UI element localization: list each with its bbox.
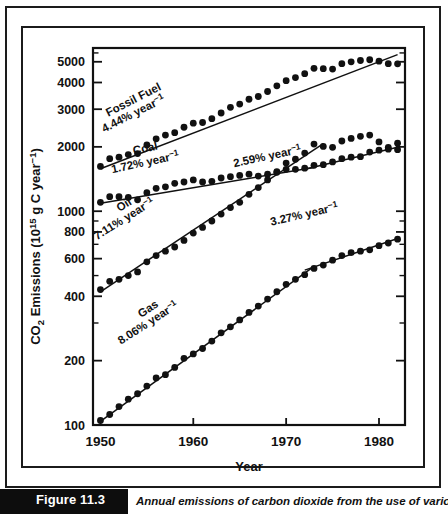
data-point-coal: [264, 171, 271, 178]
data-point-coal: [162, 183, 169, 190]
data-point-coal: [199, 179, 206, 186]
data-point-oil: [218, 211, 225, 218]
x-axis-title: Year: [235, 459, 262, 474]
x-tick-label: 1950: [85, 434, 115, 449]
data-point-coal: [153, 185, 160, 192]
data-point-fossil-fuel: [320, 65, 327, 72]
data-point-oil: [97, 286, 104, 293]
data-point-gas: [181, 355, 188, 362]
data-point-fossil-fuel: [208, 115, 215, 122]
data-point-oil: [348, 135, 355, 142]
data-point-fossil-fuel: [292, 74, 299, 81]
data-point-oil: [320, 143, 327, 150]
data-point-oil: [199, 224, 206, 231]
data-point-oil: [255, 184, 262, 191]
data-point-coal: [181, 179, 188, 186]
data-point-coal: [292, 166, 299, 173]
data-point-coal: [376, 147, 383, 154]
data-point-oil: [143, 258, 150, 265]
y-tick-label: 400: [64, 290, 85, 304]
data-point-fossil-fuel: [97, 163, 104, 170]
data-point-gas: [338, 252, 345, 259]
y-tick-label: 3000: [57, 103, 85, 117]
y-tick-label: 2000: [57, 140, 85, 154]
data-point-coal: [394, 146, 401, 153]
data-point-gas: [264, 296, 271, 303]
data-point-gas: [255, 303, 262, 310]
data-point-fossil-fuel: [236, 101, 243, 108]
data-point-oil: [273, 168, 280, 175]
data-point-gas: [218, 329, 225, 336]
data-point-oil: [292, 156, 299, 163]
data-point-fossil-fuel: [116, 154, 123, 161]
data-point-gas: [376, 242, 383, 249]
data-point-fossil-fuel: [273, 82, 280, 89]
data-point-oil: [190, 230, 197, 237]
trendline-gas-early: [100, 266, 314, 421]
data-point-fossil-fuel: [329, 66, 336, 73]
data-point-gas: [320, 262, 327, 269]
data-point-gas: [125, 396, 132, 403]
data-point-fossil-fuel: [246, 96, 253, 103]
data-point-fossil-fuel: [394, 60, 401, 67]
data-point-fossil-fuel: [338, 60, 345, 67]
co2-emissions-chart: 1002004006008001000200030004000500019501…: [0, 0, 448, 514]
data-point-oil: [338, 138, 345, 145]
data-point-coal: [171, 180, 178, 187]
data-point-gas: [97, 417, 104, 424]
data-point-gas: [246, 309, 253, 316]
data-point-fossil-fuel: [227, 104, 234, 111]
data-point-gas: [153, 375, 160, 382]
data-point-coal: [255, 173, 262, 180]
data-point-gas: [292, 276, 299, 283]
chart-container: 1002004006008001000200030004000500019501…: [0, 0, 448, 514]
data-point-fossil-fuel: [199, 119, 206, 126]
data-point-fossil-fuel: [301, 70, 308, 77]
data-point-fossil-fuel: [348, 58, 355, 65]
x-tick-label: 1970: [271, 434, 301, 449]
y-tick-label: 4000: [57, 76, 85, 90]
data-point-coal: [218, 175, 225, 182]
data-point-coal: [329, 159, 336, 166]
x-tick-label: 1980: [364, 434, 394, 449]
data-point-coal: [366, 149, 373, 156]
trendline-coal-early: [100, 168, 314, 204]
y-tick-label: 200: [64, 354, 85, 368]
data-point-oil: [394, 140, 401, 147]
data-point-fossil-fuel: [255, 93, 262, 100]
data-point-oil: [246, 191, 253, 198]
y-tick-label: 600: [64, 252, 85, 266]
data-point-gas: [116, 403, 123, 410]
y-tick-label: 100: [64, 419, 85, 433]
data-point-coal: [97, 199, 104, 206]
data-point-coal: [348, 154, 355, 161]
data-point-oil: [116, 276, 123, 283]
data-point-gas: [236, 317, 243, 324]
data-point-oil: [236, 199, 243, 206]
caption-text-container: Annual emissions of carbon dioxide from …: [128, 489, 448, 514]
data-point-gas: [199, 345, 206, 352]
data-point-coal: [357, 153, 364, 160]
y-tick-label: 5000: [57, 55, 85, 69]
data-point-coal: [106, 193, 113, 200]
data-point-coal: [246, 171, 253, 178]
data-point-coal: [208, 178, 215, 185]
data-point-coal: [301, 165, 308, 172]
data-point-gas: [190, 351, 197, 358]
data-point-oil: [366, 132, 373, 139]
data-point-oil: [311, 141, 318, 148]
data-point-fossil-fuel: [190, 120, 197, 127]
data-point-fossil-fuel: [366, 56, 373, 63]
data-point-oil: [376, 138, 383, 145]
data-point-coal: [320, 161, 327, 168]
data-point-gas: [394, 236, 401, 243]
data-point-oil: [301, 150, 308, 157]
data-point-coal: [338, 155, 345, 162]
data-point-gas: [227, 323, 234, 330]
data-point-oil: [208, 218, 215, 225]
data-point-gas: [357, 248, 364, 255]
data-point-oil: [134, 269, 141, 276]
data-point-fossil-fuel: [311, 65, 318, 72]
data-point-gas: [171, 364, 178, 371]
y-tick-label: 1000: [57, 205, 85, 219]
